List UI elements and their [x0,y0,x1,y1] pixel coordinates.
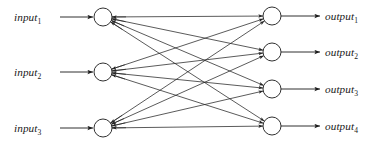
neural-network-diagram: input1input2input3 output1output2output3… [0,0,384,145]
connection-edge-in1-out2 [112,19,263,50]
output-label-2: output2 [325,46,358,61]
output-node-4 [263,117,281,135]
connection-edge-head-out4-in2 [112,75,125,79]
output-node-1 [263,7,281,25]
connection-edge-head-out2-in2 [112,69,126,71]
input-node-group [94,8,112,137]
input-label-group: input1input2input3 [14,11,42,137]
connection-edge-in3-out3 [112,91,263,126]
connection-edge-in1-out3 [111,21,263,86]
output-node-group [263,7,281,135]
connection-edge-in3-out4 [112,126,263,128]
input-node-1 [94,8,112,26]
input-arrow-group [60,17,93,128]
connection-edge-head-out3-in2 [112,73,126,74]
output-label-4: output4 [325,120,358,135]
connection-edge-in3-out2 [111,56,264,125]
output-node-2 [263,43,281,61]
output-label-group: output1output2output3output4 [325,10,358,135]
input-label-1: input1 [14,11,42,26]
output-node-3 [263,80,281,98]
input-label-3: input3 [14,122,42,137]
connection-edge-in2-out2 [112,53,263,71]
connection-edge-in3-out1 [111,21,265,123]
output-label-3: output3 [325,83,358,98]
connection-edge-in2-out4 [112,75,264,124]
input-node-3 [94,119,112,137]
connection-edge-group [111,16,265,128]
output-label-1: output1 [325,10,358,25]
output-arrow-group [281,16,320,126]
input-node-2 [94,63,112,81]
connection-edge-in1-out1 [112,16,263,17]
connection-edge-head-out1-in2 [112,65,125,69]
input-label-2: input2 [14,66,42,81]
network-svg-canvas: input1input2input3 output1output2output3… [0,0,384,145]
connection-edge-in2-out1 [112,19,264,69]
connection-edge-in1-out4 [111,22,265,121]
